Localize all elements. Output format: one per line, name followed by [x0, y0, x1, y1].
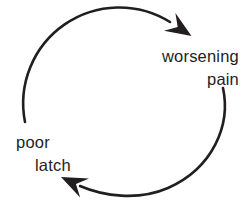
node-poor-latch: poor latch — [16, 131, 71, 177]
arrowhead-top-right-icon — [164, 13, 197, 45]
node-poor-latch-line2: latch — [16, 154, 71, 177]
node-worsening-pain: worsening pain — [162, 45, 239, 91]
arrow-worsening-pain-to-poor-latch — [57, 88, 225, 198]
arc-bottom-right — [80, 88, 225, 196]
node-poor-latch-line1: poor — [16, 131, 71, 154]
arc-top-left — [23, 7, 170, 122]
node-worsening-pain-line2: pain — [162, 68, 239, 91]
cycle-diagram: worsening pain poor latch — [0, 0, 245, 208]
node-worsening-pain-line1: worsening — [162, 45, 239, 68]
